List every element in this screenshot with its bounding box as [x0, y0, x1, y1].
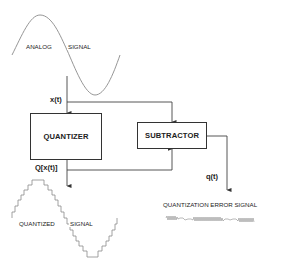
input-variable-label: x(t) — [50, 96, 62, 104]
subtractor-block: SUBTRACTOR — [137, 122, 207, 149]
analog-signal-label-right: SIGNAL — [67, 44, 92, 50]
quantization-diagram: ANALOG SIGNAL x(t) QUANTIZER SUBTRACTOR … — [0, 0, 294, 268]
quantizer-block: QUANTIZER — [30, 113, 102, 160]
quantized-signal-staircase — [12, 180, 117, 257]
quantized-signal-label-left: QUANTIZED — [18, 221, 56, 227]
error-output-line — [207, 136, 227, 190]
error-signal-noise — [166, 216, 254, 222]
quantizer-label: QUANTIZER — [43, 132, 88, 141]
quantized-signal-label-right: SIGNAL — [69, 221, 94, 227]
analog-signal-label-left: ANALOG — [25, 44, 53, 50]
error-variable-label: q(t) — [206, 173, 218, 181]
quantized-variable-label: Q[x(t)] — [35, 164, 58, 172]
subtractor-label: SUBTRACTOR — [145, 131, 199, 140]
error-signal-label: QUANTIZATION ERROR SIGNAL — [162, 202, 258, 208]
analog-signal-curve — [12, 15, 120, 95]
